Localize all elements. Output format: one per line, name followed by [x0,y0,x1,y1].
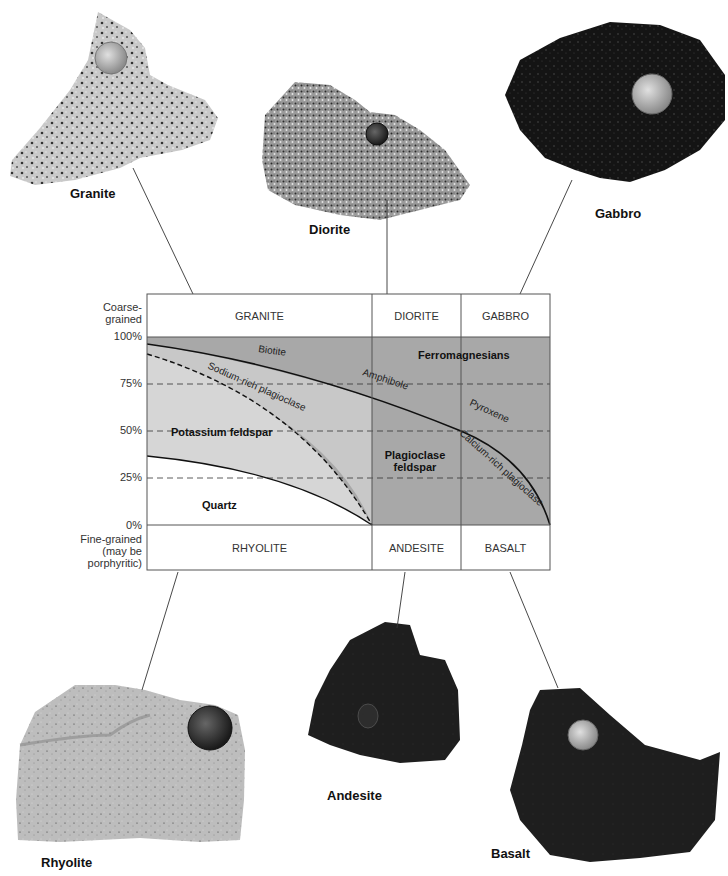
cell-gabbro: GABBRO [461,294,550,337]
chart-plot: Ferromagnesians Biotite Amphibole Pyroxe… [0,0,728,876]
cell-rhyolite: RHYOLITE [147,525,372,570]
feldspar-label: feldspar [394,461,438,473]
cell-granite: GRANITE [147,294,372,337]
plagioclase-label: Plagioclase [385,449,446,461]
potassium-feldspar-label: Potassium feldspar [171,426,273,438]
ferromagnesians-label: Ferromagnesians [418,349,510,361]
cell-diorite: DIORITE [372,294,461,337]
cell-basalt: BASALT [461,525,550,570]
quartz-label: Quartz [202,499,237,511]
cell-andesite: ANDESITE [372,525,461,570]
